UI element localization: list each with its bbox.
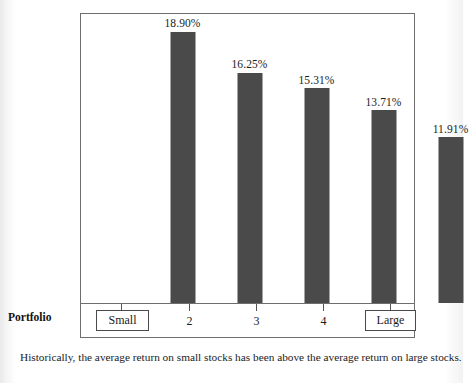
bar[interactable]	[438, 137, 463, 303]
category-slot-small: Small	[89, 304, 156, 337]
bar-value-label: 16.25%	[231, 58, 267, 70]
category-label-4: 4	[321, 315, 327, 327]
category-slot-large: Large	[357, 304, 424, 337]
chart-frame: 18.90% 16.25% 15.31% 13.71% 11.91%	[80, 13, 415, 338]
bar-slot: 11.91%	[417, 13, 473, 303]
bar[interactable]	[371, 110, 396, 303]
bar-slot: 16.25%	[216, 13, 283, 303]
category-label-2: 2	[187, 315, 193, 327]
category-slot-3: 3	[223, 304, 290, 337]
bar-slot: 18.90%	[149, 13, 216, 303]
category-slot-2: 2	[156, 304, 223, 337]
bar[interactable]	[304, 88, 329, 303]
bar[interactable]	[237, 73, 262, 303]
bar-slot: 15.31%	[283, 13, 350, 303]
category-label-large: Large	[365, 310, 417, 331]
category-label-small: Small	[96, 310, 148, 331]
category-label-3: 3	[254, 315, 260, 327]
bar-value-label: 11.91%	[433, 123, 469, 135]
x-axis-title: Portfolio	[8, 311, 76, 323]
category-label-band: Small 2 3 4 Large	[81, 303, 414, 337]
plot-area: 18.90% 16.25% 15.31% 13.71% 11.91%	[81, 14, 414, 304]
bar-value-label: 18.90%	[164, 17, 200, 29]
figure-caption: Historically, the average return on smal…	[20, 350, 445, 365]
bar-value-label: 15.31%	[298, 74, 334, 86]
category-slot-4: 4	[290, 304, 357, 337]
bar-slot: 13.71%	[350, 13, 417, 303]
bar-value-label: 13.71%	[365, 96, 401, 108]
bar[interactable]	[170, 32, 195, 303]
